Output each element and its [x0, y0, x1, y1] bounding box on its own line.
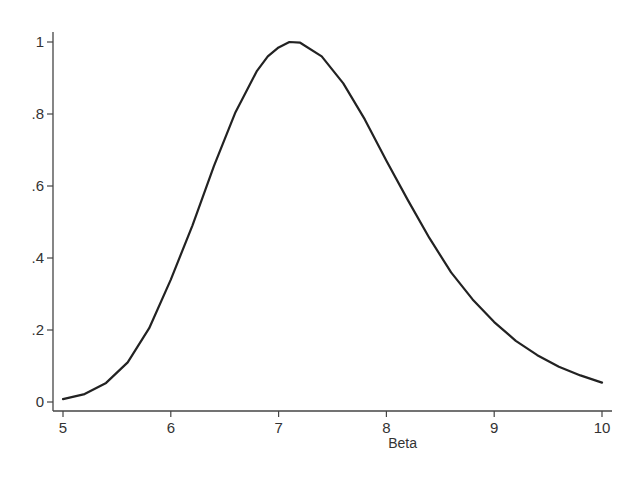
x-tick-label: 5	[59, 419, 67, 436]
x-tick-label: 7	[274, 419, 282, 436]
y-tick-label: 1	[36, 33, 44, 50]
y-tick-label: 0	[36, 393, 44, 410]
x-tick-label: 8	[382, 419, 390, 436]
y-tick-label: .4	[31, 249, 44, 266]
y-tick-label: .6	[31, 177, 44, 194]
line-chart: 0.2.4.6.81 5678910 Beta	[0, 0, 636, 481]
y-tick-label: .2	[31, 321, 44, 338]
x-tick-label: 9	[490, 419, 498, 436]
x-tick-label: 10	[594, 419, 611, 436]
x-tick-label: 6	[167, 419, 175, 436]
x-axis-title: Beta	[388, 435, 417, 451]
y-tick-label: .8	[31, 105, 44, 122]
y-axis: 0.2.4.6.81	[31, 32, 53, 411]
data-line	[63, 42, 602, 399]
x-axis: 5678910	[53, 411, 612, 436]
